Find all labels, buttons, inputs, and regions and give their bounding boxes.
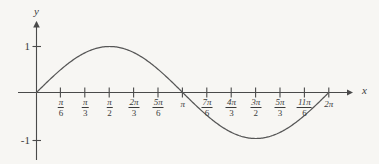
fraction-denominator: 2: [250, 108, 261, 119]
sine-curve-figure: y x 1 -1 π6π3π22π35π6π7π64π33π25π311π62π: [0, 0, 379, 164]
fraction-numerator: π: [58, 97, 65, 108]
x-tick-label: π: [180, 99, 185, 109]
fraction-numerator: 11π: [297, 97, 312, 108]
fraction-numerator: 2π: [128, 97, 139, 108]
x-tick-label: 7π6: [201, 97, 212, 119]
fraction-denominator: 2: [106, 108, 113, 119]
fraction-denominator: 6: [58, 108, 65, 119]
fraction-numerator: 4π: [226, 97, 237, 108]
y-tick-label-1: 1: [16, 41, 30, 52]
fraction-numerator: π: [106, 97, 113, 108]
fraction-denominator: 6: [297, 108, 312, 119]
x-tick-label: π6: [58, 97, 65, 119]
tick-value: 2π: [324, 99, 333, 109]
x-tick-label: 3π2: [250, 97, 261, 119]
tick-value: π: [180, 99, 185, 109]
x-tick-label: 4π3: [226, 97, 237, 119]
fraction-numerator: 7π: [201, 97, 212, 108]
y-tick-label-neg1: -1: [12, 135, 30, 146]
fraction-numerator: π: [82, 97, 89, 108]
fraction-denominator: 3: [275, 108, 286, 119]
fraction-denominator: 3: [82, 108, 89, 119]
x-tick-label: 5π3: [275, 97, 286, 119]
x-tick-label: 5π6: [153, 97, 164, 119]
plot-canvas: [0, 0, 379, 164]
x-axis-label: x: [362, 85, 367, 96]
x-tick-label: 11π6: [297, 97, 312, 119]
y-axis-label: y: [34, 6, 39, 17]
fraction-numerator: 3π: [250, 97, 261, 108]
fraction-numerator: 5π: [275, 97, 286, 108]
x-tick-label: π2: [106, 97, 113, 119]
x-tick-label: π3: [82, 97, 89, 119]
fraction-denominator: 6: [201, 108, 212, 119]
fraction-denominator: 6: [153, 108, 164, 119]
fraction-denominator: 3: [128, 108, 139, 119]
x-tick-label: 2π: [324, 99, 333, 109]
x-tick-label: 2π3: [128, 97, 139, 119]
fraction-denominator: 3: [226, 108, 237, 119]
fraction-numerator: 5π: [153, 97, 164, 108]
